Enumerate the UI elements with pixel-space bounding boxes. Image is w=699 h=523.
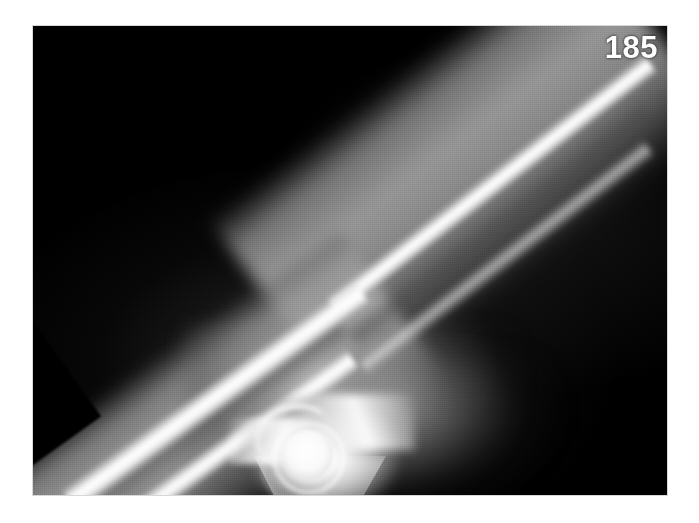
radiograph-image: 185	[33, 26, 667, 495]
capitellum	[283, 430, 333, 480]
figure-number: 185	[605, 32, 658, 63]
figure-page: 185	[0, 0, 699, 523]
